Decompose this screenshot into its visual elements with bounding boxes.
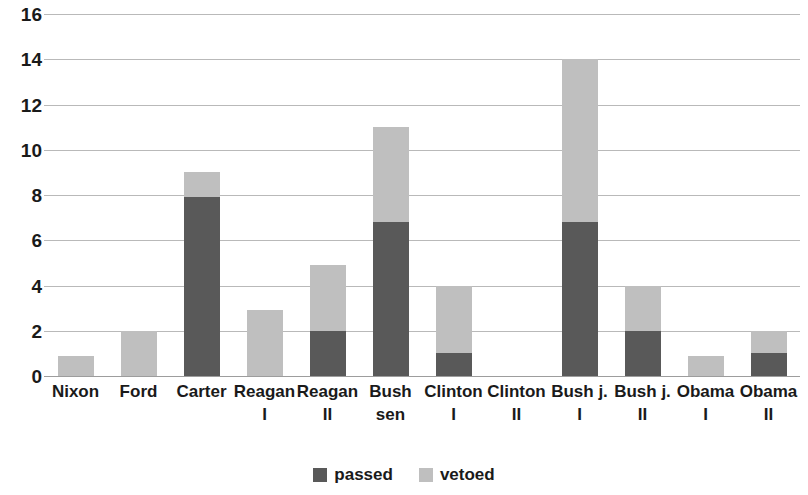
- x-label-line1: Clinton: [487, 382, 546, 401]
- bar-stack[interactable]: [184, 172, 220, 376]
- x-label-line1: Ford: [120, 382, 158, 401]
- bar-group[interactable]: [611, 14, 674, 376]
- gridline-0: [44, 376, 800, 377]
- legend-item[interactable]: passed: [313, 466, 393, 483]
- legend-swatch-icon: [419, 468, 433, 482]
- bar-segment-vetoed[interactable]: [121, 331, 157, 376]
- x-label-line2: I: [548, 404, 611, 427]
- bar-group[interactable]: [170, 14, 233, 376]
- bar-group[interactable]: [296, 14, 359, 376]
- bar-stack[interactable]: [562, 59, 598, 376]
- x-label-line1: Obama: [740, 382, 798, 401]
- bar-stack[interactable]: [310, 265, 346, 376]
- x-label-line1: Bush j.: [551, 382, 608, 401]
- y-tick-label-0: 0: [2, 367, 42, 386]
- x-axis-label: ReaganI: [233, 381, 296, 427]
- bars-layer: [44, 14, 800, 376]
- y-tick-label-8: 8: [2, 186, 42, 205]
- x-label-line1: Carter: [176, 382, 226, 401]
- bar-group[interactable]: [674, 14, 737, 376]
- x-label-line1: Bush: [369, 382, 412, 401]
- bar-segment-passed[interactable]: [184, 197, 220, 376]
- x-label-line2: II: [611, 404, 674, 427]
- bar-group[interactable]: [422, 14, 485, 376]
- bar-segment-vetoed[interactable]: [625, 286, 661, 331]
- bar-segment-vetoed[interactable]: [436, 286, 472, 354]
- bar-segment-vetoed[interactable]: [58, 356, 94, 376]
- bar-stack[interactable]: [625, 286, 661, 377]
- x-label-line1: Bush j.: [614, 382, 671, 401]
- x-axis-label: ObamaI: [674, 381, 737, 427]
- y-tick-label-14: 14: [2, 50, 42, 69]
- x-label-line2: I: [233, 404, 296, 427]
- y-tick-label-4: 4: [2, 276, 42, 295]
- bar-stack[interactable]: [58, 356, 94, 376]
- x-axis-label: Bushsen: [359, 381, 422, 427]
- x-axis-label: ClintonI: [422, 381, 485, 427]
- bar-segment-vetoed[interactable]: [373, 127, 409, 222]
- bar-group[interactable]: [548, 14, 611, 376]
- legend-label: vetoed: [440, 466, 495, 483]
- x-axis-label: ObamaII: [737, 381, 800, 427]
- bar-group[interactable]: [233, 14, 296, 376]
- bar-stack[interactable]: [121, 331, 157, 376]
- bar-segment-vetoed[interactable]: [247, 310, 283, 376]
- bar-stack[interactable]: [688, 356, 724, 376]
- bar-segment-vetoed[interactable]: [310, 265, 346, 331]
- x-axis-label: Nixon: [44, 381, 107, 404]
- legend-label: passed: [334, 466, 393, 483]
- x-axis-label: Bush j.II: [611, 381, 674, 427]
- bar-segment-passed[interactable]: [373, 222, 409, 376]
- y-tick-label-16: 16: [2, 5, 42, 24]
- bar-segment-vetoed[interactable]: [751, 331, 787, 354]
- x-label-line2: sen: [359, 404, 422, 427]
- x-label-line2: I: [422, 404, 485, 427]
- bar-group[interactable]: [359, 14, 422, 376]
- x-axis-labels: NixonFordCarterReaganIReaganIIBushsenCli…: [44, 381, 800, 451]
- bar-segment-passed[interactable]: [436, 353, 472, 376]
- x-axis-label: ClintonII: [485, 381, 548, 427]
- x-label-line1: Clinton: [424, 382, 483, 401]
- y-tick-label-10: 10: [2, 140, 42, 159]
- bar-segment-passed[interactable]: [562, 222, 598, 376]
- bar-stack[interactable]: [436, 286, 472, 377]
- y-tick-label-12: 12: [2, 95, 42, 114]
- x-axis-label: Ford: [107, 381, 170, 404]
- x-label-line1: Reagan: [297, 382, 358, 401]
- legend-swatch-icon: [313, 468, 327, 482]
- y-tick-label-6: 6: [2, 231, 42, 250]
- stacked-bar-chart: NixonFordCarterReaganIReaganIIBushsenCli…: [0, 0, 808, 495]
- bar-segment-passed[interactable]: [310, 331, 346, 376]
- x-label-line2: II: [296, 404, 359, 427]
- x-label-line1: Nixon: [52, 382, 99, 401]
- x-label-line1: Obama: [677, 382, 735, 401]
- x-label-line2: I: [674, 404, 737, 427]
- x-axis-label: Bush j.I: [548, 381, 611, 427]
- y-tick-label-2: 2: [2, 321, 42, 340]
- bar-group[interactable]: [737, 14, 800, 376]
- bar-segment-passed[interactable]: [751, 353, 787, 376]
- bar-stack[interactable]: [751, 331, 787, 376]
- bar-stack[interactable]: [247, 310, 283, 376]
- bar-segment-vetoed[interactable]: [688, 356, 724, 376]
- x-axis-label: Carter: [170, 381, 233, 404]
- bar-segment-passed[interactable]: [625, 331, 661, 376]
- x-label-line1: Reagan: [234, 382, 295, 401]
- x-axis-label: ReaganII: [296, 381, 359, 427]
- bar-group[interactable]: [107, 14, 170, 376]
- bar-group[interactable]: [44, 14, 107, 376]
- plot-area: [44, 14, 800, 376]
- bar-stack[interactable]: [373, 127, 409, 376]
- bar-segment-vetoed[interactable]: [562, 59, 598, 222]
- bar-segment-vetoed[interactable]: [184, 172, 220, 197]
- x-label-line2: II: [485, 404, 548, 427]
- x-label-line2: II: [737, 404, 800, 427]
- bar-group[interactable]: [485, 14, 548, 376]
- legend-item[interactable]: vetoed: [419, 466, 495, 483]
- chart-legend: passedvetoed: [0, 466, 808, 483]
